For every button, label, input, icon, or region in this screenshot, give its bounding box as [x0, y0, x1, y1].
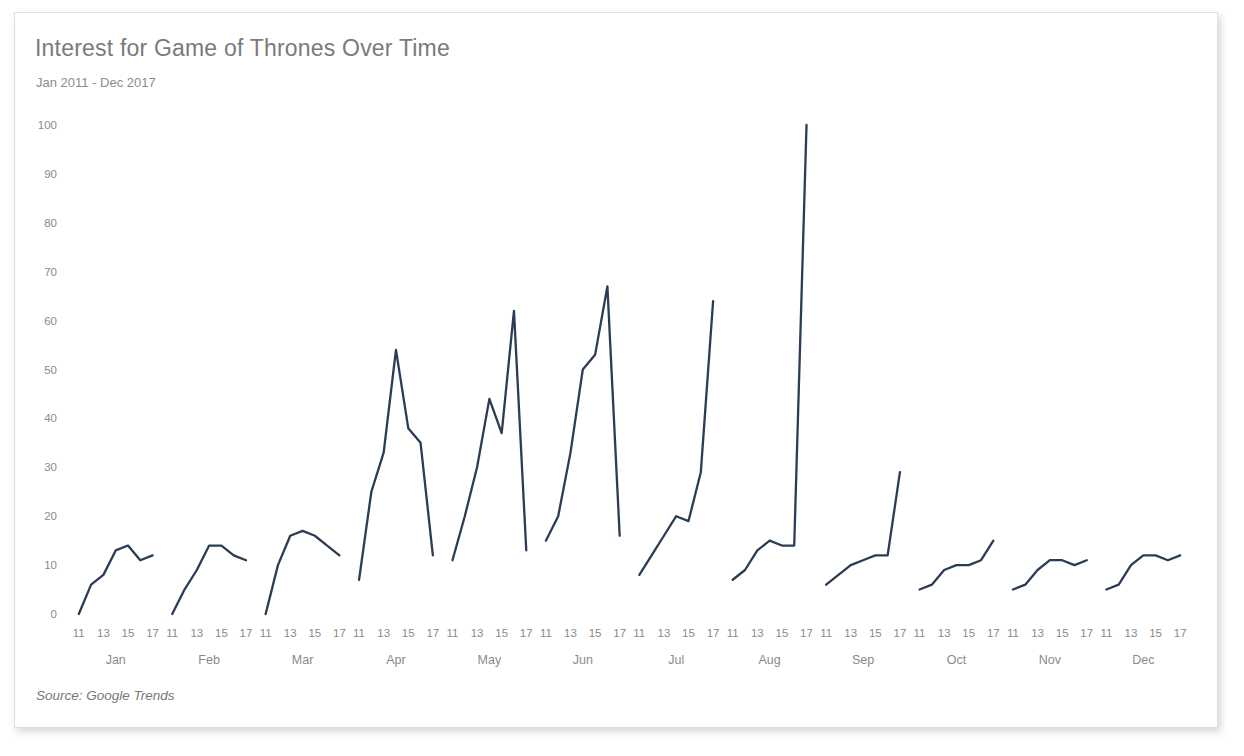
- x-axis-tick-label: 13: [558, 627, 582, 639]
- x-axis-tick-label: 13: [185, 627, 209, 639]
- x-axis-tick-label: 11: [1001, 627, 1025, 639]
- y-axis-tick-label: 90: [23, 168, 57, 180]
- y-axis-tick-label: 40: [23, 412, 57, 424]
- series-line-feb: [172, 546, 246, 614]
- x-axis-tick-label: 15: [116, 627, 140, 639]
- y-axis-tick-label: 10: [23, 559, 57, 571]
- y-axis-tick-label: 70: [23, 266, 57, 278]
- series-line-apr: [359, 350, 433, 580]
- x-axis-group-label: Sep: [828, 653, 898, 667]
- x-axis-tick-label: 11: [254, 627, 278, 639]
- series-line-aug: [733, 125, 807, 580]
- x-axis-tick-label: 11: [814, 627, 838, 639]
- series-line-dec: [1106, 555, 1180, 589]
- y-axis-tick-label: 0: [23, 608, 57, 620]
- x-axis-tick-label: 15: [490, 627, 514, 639]
- x-axis-tick-label: 11: [908, 627, 932, 639]
- x-axis-group-label: Oct: [921, 653, 991, 667]
- x-axis-tick-label: 15: [396, 627, 420, 639]
- x-axis-tick-label: 13: [1026, 627, 1050, 639]
- y-axis-tick-label: 80: [23, 217, 57, 229]
- series-line-jul: [639, 301, 713, 575]
- x-axis-group-label: Feb: [174, 653, 244, 667]
- x-axis-tick-label: 11: [67, 627, 91, 639]
- x-axis-group-label: Mar: [268, 653, 338, 667]
- source-note: Source: Google Trends: [36, 688, 175, 703]
- y-axis-tick-label: 50: [23, 364, 57, 376]
- series-line-mar: [266, 531, 340, 614]
- chart-card: Interest for Game of Thrones Over Time J…: [14, 12, 1218, 728]
- x-axis-group-label: Dec: [1108, 653, 1178, 667]
- x-axis-tick-label: 13: [745, 627, 769, 639]
- x-axis-tick-label: 11: [627, 627, 651, 639]
- series-line-oct: [920, 541, 994, 590]
- y-axis-tick-label: 100: [23, 119, 57, 131]
- x-axis-tick-label: 17: [1168, 627, 1192, 639]
- x-axis-tick-label: 11: [1094, 627, 1118, 639]
- x-axis-tick-label: 13: [465, 627, 489, 639]
- x-axis-group-label: Nov: [1015, 653, 1085, 667]
- y-axis-tick-label: 20: [23, 510, 57, 522]
- x-axis-tick-label: 13: [278, 627, 302, 639]
- x-axis-tick-label: 11: [721, 627, 745, 639]
- x-axis-tick-label: 11: [534, 627, 558, 639]
- x-axis-tick-label: 11: [440, 627, 464, 639]
- series-line-nov: [1013, 560, 1087, 589]
- series-line-may: [452, 311, 526, 560]
- x-axis-group-label: Jan: [81, 653, 151, 667]
- series-line-jun: [546, 286, 620, 540]
- x-axis-tick-label: 15: [957, 627, 981, 639]
- x-axis-tick-label: 15: [209, 627, 233, 639]
- series-line-sep: [826, 472, 900, 584]
- x-axis-tick-label: 15: [1144, 627, 1168, 639]
- x-axis-tick-label: 11: [347, 627, 371, 639]
- x-axis-tick-label: 15: [677, 627, 701, 639]
- y-axis-tick-label: 60: [23, 315, 57, 327]
- chart-plot-area: 010203040506070809010011131517Jan1113151…: [15, 13, 1219, 729]
- x-axis-tick-label: 15: [303, 627, 327, 639]
- x-axis-group-label: Jul: [641, 653, 711, 667]
- x-axis-tick-label: 13: [839, 627, 863, 639]
- x-axis-group-label: Apr: [361, 653, 431, 667]
- y-axis-tick-label: 30: [23, 461, 57, 473]
- x-axis-group-label: May: [454, 653, 524, 667]
- x-axis-tick-label: 13: [1119, 627, 1143, 639]
- series-layer: [15, 13, 1219, 729]
- series-line-jan: [79, 546, 153, 614]
- x-axis-tick-label: 13: [932, 627, 956, 639]
- x-axis-group-label: Jun: [548, 653, 618, 667]
- x-axis-tick-label: 15: [863, 627, 887, 639]
- x-axis-group-label: Aug: [735, 653, 805, 667]
- x-axis-tick-label: 15: [583, 627, 607, 639]
- x-axis-tick-label: 13: [91, 627, 115, 639]
- x-axis-tick-label: 15: [770, 627, 794, 639]
- x-axis-tick-label: 13: [372, 627, 396, 639]
- x-axis-tick-label: 11: [160, 627, 184, 639]
- x-axis-tick-label: 13: [652, 627, 676, 639]
- x-axis-tick-label: 15: [1050, 627, 1074, 639]
